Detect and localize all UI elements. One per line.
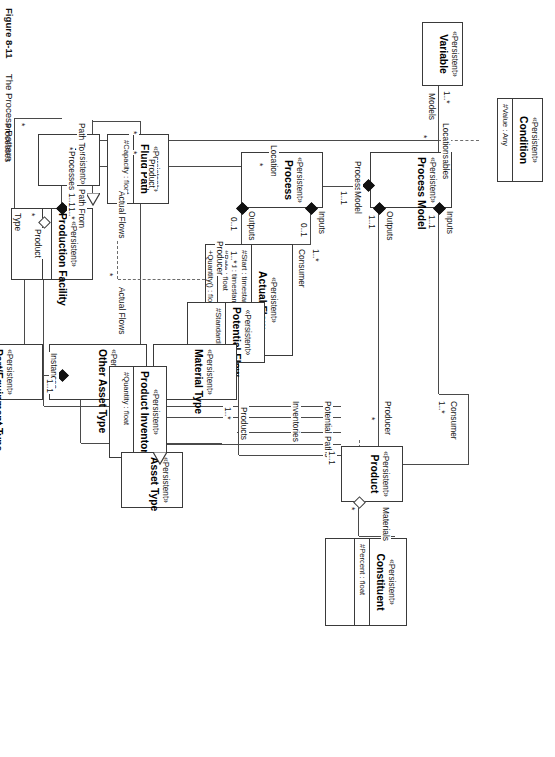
label-product-fluidpath: Product	[147, 158, 157, 189]
class-product[interactable]: «Persistent» Product	[341, 446, 403, 502]
label-actual-flows-inventory: Actual Flows	[117, 286, 127, 335]
class-constituent-stereotype: «Persistent»	[386, 543, 396, 621]
mult-potential-paths: 1..1	[327, 450, 337, 466]
mult-model: 1..1	[339, 190, 349, 206]
class-product-inventory-stereotype: «Persistent»	[150, 371, 160, 453]
class-variable-stereotype: «Persistent»	[449, 27, 459, 81]
label-path-to: Path To	[77, 122, 87, 152]
mult-process-inputs: 0..1	[299, 222, 309, 238]
mult-type: *	[27, 212, 37, 217]
connector-locations-stub	[417, 140, 439, 141]
uml-class-diagram: «Persistent» Condition #Value : Any «Per…	[0, 0, 555, 757]
class-part-equipment-type-stereotype: «Persistent»	[4, 349, 14, 395]
class-variable-name: Variable	[437, 27, 449, 81]
mult-locations: *	[419, 134, 429, 139]
mult-product-consumer: 1..*	[437, 400, 447, 415]
label-product-facility: Product	[33, 228, 43, 259]
class-condition-name: Condition	[517, 103, 529, 177]
mult-af-consumer: 1..*	[311, 248, 321, 263]
mult-materials: *	[347, 506, 357, 511]
class-material-type-name: Material Type	[192, 349, 204, 395]
mult-pathfrom-1star: 1..*	[67, 206, 77, 221]
connector-product-consumer	[403, 464, 469, 465]
mult-fluidpath: *	[129, 130, 139, 135]
class-other-asset-type-name: Other Asset Type	[96, 349, 108, 395]
label-inventories: Inventories	[291, 400, 301, 443]
class-condition[interactable]: «Persistent» Condition #Value : Any	[497, 98, 543, 182]
class-variable-header: «Persistent» Variable	[423, 23, 462, 85]
class-process-header: «Persistent» Process	[278, 153, 322, 207]
class-condition-stereotype: «Persistent»	[529, 103, 539, 177]
attribute: #Quantity : float	[121, 372, 131, 453]
class-product-inventory-header: «Persistent»Product Inventory	[134, 367, 166, 457]
attribute: #Percent : float	[357, 544, 367, 621]
class-constituent[interactable]: «Persistent» Constituent #Percent : floa…	[325, 538, 407, 626]
class-product-header: «Persistent» Product	[364, 447, 402, 501]
class-variable[interactable]: «Persistent» Variable	[422, 22, 463, 86]
label-models: Models	[427, 92, 437, 121]
connector-pm-inputs-h1	[438, 208, 439, 394]
mult-pm-inputs: 1..1	[427, 214, 437, 230]
class-constituent-header: «Persistent» Constituent	[370, 539, 406, 625]
connector-materialtype-gen-v	[160, 443, 222, 444]
connector-actualflows-dashed-v	[118, 279, 205, 280]
generalization-triangle-assettype	[152, 452, 167, 466]
class-part-equipment-type-header: «Persistent»Part/Equipment Type	[0, 345, 42, 399]
label-inputs-process: Inputs	[317, 210, 327, 235]
class-constituent-operations	[346, 539, 355, 625]
mult-processes-11: 1..1	[67, 192, 77, 208]
connector-pm-outputs-h	[378, 208, 379, 474]
label-model: Model	[353, 190, 363, 215]
connector-pm-inputs-v	[439, 394, 469, 395]
class-product-inventory[interactable]: «Persistent»Product Inventory#Quantity :…	[109, 366, 167, 458]
figure-number: Figure 8-11	[4, 8, 15, 59]
class-process-name: Process	[282, 157, 294, 203]
label-consumer-product: Consumer	[449, 400, 459, 441]
connector-pm-inputs-h2	[468, 394, 469, 464]
class-process-stereotype: «Persistent»	[294, 157, 304, 203]
class-part-equipment-type-name: Part/Equipment Type	[0, 349, 4, 395]
connector-processes-bottom-v	[15, 118, 62, 119]
class-part-equipment-type[interactable]: «Persistent»Part/Equipment Type	[0, 344, 43, 400]
class-condition-attributes: #Value : Any	[498, 99, 513, 181]
label-processes-facility: Processes	[67, 150, 77, 191]
class-process-model[interactable]: «Persistent» Process Model	[370, 152, 452, 208]
connector-pathto-h	[140, 121, 141, 134]
connector-inventories-v	[153, 444, 341, 445]
class-production-facility-name: Production Facility	[56, 213, 68, 275]
label-location: Location	[269, 144, 279, 178]
class-condition-header: «Persistent» Condition	[513, 99, 542, 181]
mult-processes-star: *	[17, 122, 27, 127]
label-outputs-pm: Outputs	[385, 210, 395, 241]
label-type: Type	[13, 212, 23, 232]
mult-af-producer: 1..*	[229, 250, 239, 265]
attribute: #Value : Any	[500, 104, 510, 177]
class-process[interactable]: «Persistent» Process	[241, 152, 323, 208]
mult-instances: 1..1	[45, 378, 55, 394]
class-material-type-header: «Persistent» Material Type	[188, 345, 236, 399]
class-constituent-attributes: #Percent : float	[355, 539, 370, 625]
class-product-inventory-attributes: #Quantity : float	[119, 367, 134, 457]
connector-pathto-v	[93, 121, 141, 122]
class-process-model-stereotype: «Persistent»	[427, 157, 437, 203]
figure-caption: Figure 8-11 The Process Pattern	[4, 8, 15, 161]
class-product-inventory-name: Product Inventory	[138, 371, 150, 453]
label-materials: Materials	[381, 506, 391, 542]
label-locations: Locations	[441, 122, 451, 160]
mult-products: 1..*	[223, 406, 233, 421]
class-process-model-name: Process Model	[415, 157, 427, 203]
class-material-type-stereotype: «Persistent»	[204, 349, 214, 395]
label-producer-af: Producer	[215, 240, 225, 276]
label-outputs-process: Outputs	[247, 210, 257, 241]
class-constituent-name: Constituent	[374, 543, 386, 621]
mult-product-fluidpath: *	[129, 150, 139, 155]
label-consumer-af: Consumer	[297, 248, 307, 289]
class-product-name: Product	[368, 451, 380, 497]
class-product-stereotype: «Persistent»	[380, 451, 390, 497]
label-actual-flows-fluidpath: Actual Flows	[117, 190, 127, 239]
label-products: Products	[239, 406, 249, 441]
generalization-triangle-asset	[85, 193, 100, 207]
mult-pm-outputs: 1..1	[367, 214, 377, 230]
mult-variable: 1..*	[442, 90, 452, 105]
figure-title: The Process Pattern	[4, 74, 15, 161]
